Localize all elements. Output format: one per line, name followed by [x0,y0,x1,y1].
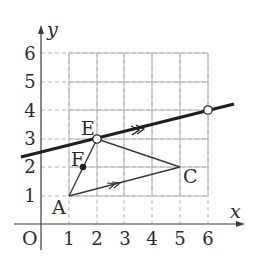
coordinate-plane: x y O 1 2 3 4 5 6 1 2 3 4 5 6 A E F [0,0,258,271]
origin-label: O [22,227,38,249]
segment-ec [97,139,180,167]
y-axis-label: y [46,18,58,40]
y-tick: 1 [24,185,35,206]
point-label-e: E [81,117,95,139]
diagram-canvas: x y O 1 2 3 4 5 6 1 2 3 4 5 6 A E F [0,0,258,271]
x-tick: 1 [63,228,74,249]
x-tick: 4 [146,228,157,249]
y-axis-arrow-icon [38,25,44,34]
y-tick: 2 [24,156,35,177]
y-tick: 4 [24,100,35,121]
grid [41,53,208,224]
axes [14,25,245,250]
point-label-c: C [183,165,198,187]
point-6-4-marker [204,106,212,114]
x-axis-label: x [230,200,241,222]
x-tick: 5 [174,228,185,249]
x-tick: 3 [119,228,130,249]
point-label-f: F [71,148,84,170]
point-label-a: A [51,196,66,218]
y-tick: 3 [24,128,35,149]
y-tick-labels: 1 2 3 4 5 6 [24,43,35,206]
y-tick: 5 [24,71,35,92]
y-tick: 6 [24,43,35,64]
x-tick: 2 [91,228,102,249]
x-tick-labels: 1 2 3 4 5 6 [63,228,213,249]
x-tick: 6 [202,228,213,249]
